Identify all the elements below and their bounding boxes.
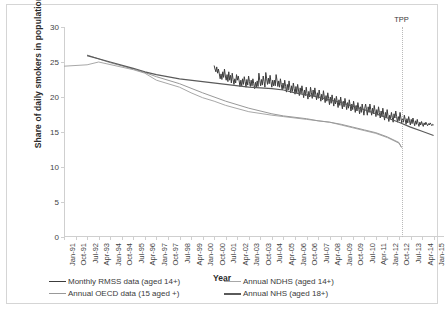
legend-item[interactable]: Monthly RMSS data (aged 14+)	[49, 277, 224, 286]
tpp-marker-line	[402, 27, 403, 237]
x-tick-mark	[180, 237, 181, 240]
x-tick-mark	[330, 237, 331, 240]
plot-area: 051015202530 Jan-91Oct-91Jul-92Apr-93Jan…	[64, 27, 444, 237]
x-tick-label: Oct-12	[402, 243, 411, 301]
x-tick-mark	[110, 237, 111, 240]
y-tick-label: 30	[50, 23, 59, 32]
x-tick-label: Jul-13	[414, 243, 423, 301]
series-canvas	[64, 27, 444, 237]
x-tick-label: Apr-14	[426, 243, 435, 301]
x-tick-mark	[318, 237, 319, 240]
y-axis-title: Share of daily smokers in population (%)	[33, 0, 47, 159]
y-tick-label: 5	[55, 198, 59, 207]
y-tick-label: 20	[50, 93, 59, 102]
legend-item[interactable]: Annual NHS (aged 18+)	[224, 289, 399, 298]
x-tick-mark	[283, 237, 284, 240]
x-tick-mark	[145, 237, 146, 240]
x-tick-label: Jan-15	[437, 243, 445, 301]
legend-label: Annual OECD data (15 aged +)	[68, 289, 179, 298]
legend-label: Annual NHS (aged 18+)	[243, 289, 328, 298]
chart-legend: Monthly RMSS data (aged 14+)Annual NDHS …	[49, 277, 399, 298]
y-tick-mark	[61, 97, 64, 98]
y-tick-label: 10	[50, 163, 59, 172]
x-tick-mark	[87, 237, 88, 240]
x-tick-mark	[422, 237, 423, 240]
legend-label: Annual NDHS (aged 14+)	[243, 277, 334, 286]
y-tick-label: 15	[50, 128, 59, 137]
x-tick-mark	[272, 237, 273, 240]
x-tick-mark	[295, 237, 296, 240]
x-tick-mark	[76, 237, 77, 240]
legend-swatch	[224, 281, 241, 282]
x-tick-mark	[249, 237, 250, 240]
x-tick-mark	[237, 237, 238, 240]
y-tick-mark	[61, 62, 64, 63]
y-tick-mark	[61, 132, 64, 133]
x-tick-mark	[226, 237, 227, 240]
x-tick-mark	[399, 237, 400, 240]
y-tick-label: 0	[55, 233, 59, 242]
x-tick-mark	[64, 237, 65, 240]
y-tick-mark	[61, 202, 64, 203]
x-tick-mark	[364, 237, 365, 240]
series-line	[87, 56, 434, 136]
legend-swatch	[224, 293, 241, 295]
legend-label: Monthly RMSS data (aged 14+)	[68, 277, 180, 286]
y-tick-label: 25	[50, 58, 59, 67]
y-tick-mark	[61, 27, 64, 28]
x-tick-mark	[376, 237, 377, 240]
legend-swatch	[49, 293, 66, 294]
x-tick-mark	[133, 237, 134, 240]
legend-item[interactable]: Annual OECD data (15 aged +)	[49, 289, 224, 298]
legend-swatch	[49, 281, 66, 282]
chart-frame: Share of daily smokers in population (%)…	[6, 4, 438, 304]
x-tick-mark	[203, 237, 204, 240]
tpp-marker-label: TPP	[394, 15, 409, 24]
x-tick-mark	[168, 237, 169, 240]
x-tick-mark	[260, 237, 261, 240]
x-tick-mark	[387, 237, 388, 240]
x-tick-mark	[156, 237, 157, 240]
x-tick-mark	[214, 237, 215, 240]
legend-item[interactable]: Annual NDHS (aged 14+)	[224, 277, 399, 286]
x-tick-mark	[191, 237, 192, 240]
x-tick-mark	[341, 237, 342, 240]
x-tick-mark	[307, 237, 308, 240]
x-tick-mark	[411, 237, 412, 240]
x-tick-mark	[122, 237, 123, 240]
x-tick-mark	[434, 237, 435, 240]
y-tick-mark	[61, 167, 64, 168]
x-tick-mark	[353, 237, 354, 240]
x-tick-mark	[99, 237, 100, 240]
